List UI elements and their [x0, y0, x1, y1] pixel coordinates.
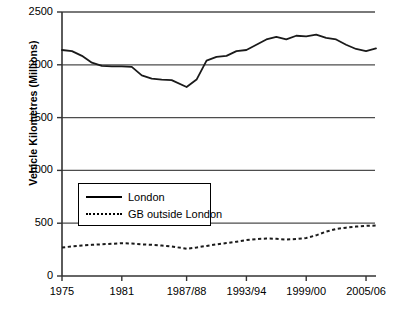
- legend-item-gb-outside-london: GB outside London: [86, 207, 222, 221]
- y-tick-label: 1500: [13, 112, 53, 123]
- x-tick-label: 1981: [92, 286, 152, 297]
- axis-ticks: [57, 12, 366, 281]
- x-tick-label: 1975: [32, 286, 92, 297]
- x-tick-label: 1987/88: [157, 286, 217, 297]
- legend-key-solid-line: [86, 192, 122, 202]
- chart-legend: London GB outside London: [78, 183, 211, 226]
- legend-label-gb-outside-london: GB outside London: [128, 208, 222, 220]
- chart-container: Vehicle Kilometres (Millions) 0500100015…: [0, 0, 393, 316]
- plot-area: [0, 0, 393, 316]
- legend-key-dotted-line: [86, 209, 122, 219]
- legend-item-london: London: [86, 190, 165, 204]
- series-line-gb-outside-london: [62, 226, 376, 249]
- x-tick-label: 1999/00: [276, 286, 336, 297]
- y-tick-label: 2500: [13, 6, 53, 17]
- y-tick-label: 1000: [13, 164, 53, 175]
- x-tick-label: 1993/94: [216, 286, 276, 297]
- legend-label-london: London: [128, 191, 165, 203]
- y-tick-label: 0: [13, 270, 53, 281]
- series-line-london: [62, 35, 376, 87]
- y-tick-label: 2000: [13, 59, 53, 70]
- x-tick-label: 2005/06: [336, 286, 393, 297]
- y-tick-label: 500: [13, 217, 53, 228]
